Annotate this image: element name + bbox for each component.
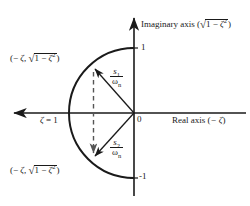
close-paren: ) — [57, 165, 60, 175]
real-axis-label-symbol: − ζ — [211, 115, 223, 125]
damping-value: 1 — [53, 115, 58, 125]
fraction-denominator: ωn — [110, 148, 123, 157]
upper-pole-coordinate-label: (− ζ, √1 − ζ2) — [10, 53, 60, 64]
radicand-prefix: 1 − — [35, 165, 49, 175]
close-paren: ) — [57, 53, 60, 63]
equals-sign: = — [46, 115, 51, 125]
s1-over-omega-n-label: s1 ωn — [110, 67, 123, 87]
open-paren: (− — [10, 53, 20, 63]
imaginary-axis-label: Imaginary axis (√1 − ζ2) — [141, 19, 231, 30]
sqrt-group: √1 − ζ2 — [28, 165, 56, 176]
fraction: s1 ωn — [110, 67, 123, 87]
radicand: 1 − ζ2 — [34, 53, 57, 63]
radicand-prefix: 1 − — [35, 53, 49, 63]
s2-over-omega-n-label: s2 ωn — [110, 138, 123, 158]
omega-subscript: n — [118, 81, 121, 88]
fraction-denominator: ωn — [110, 77, 123, 86]
exponent: 2 — [52, 51, 55, 58]
real-axis-label-close: ) — [222, 115, 225, 125]
fraction: s2 ωn — [110, 138, 123, 158]
zeta-symbol: ζ — [40, 115, 44, 125]
damping-ratio-label: ζ = 1 — [40, 116, 58, 125]
tick-label-positive-one: 1 — [141, 43, 146, 52]
sqrt-group: √1 − ζ2 — [28, 53, 56, 64]
tick-label-negative-one: -1 — [139, 172, 147, 181]
real-axis-label-prefix: Real axis ( — [172, 115, 211, 125]
open-paren: (− — [10, 165, 20, 175]
radicand: 1 − ζ2 — [205, 19, 228, 29]
imaginary-axis-label-close: ) — [228, 19, 231, 29]
omega-subscript: n — [118, 152, 121, 159]
radicand: 1 − ζ2 — [34, 165, 57, 175]
imaginary-axis-label-text: Imaginary axis ( — [141, 19, 200, 29]
exponent: 2 — [224, 17, 227, 24]
s-plane-diagram: Imaginary axis (√1 − ζ2) 1 -1 0 Real axi… — [0, 0, 250, 206]
real-axis-label: Real axis (− ζ) — [172, 116, 225, 125]
origin-label: 0 — [137, 115, 142, 124]
sqrt-group: √1 − ζ2 — [200, 19, 228, 30]
radicand-prefix: 1 − — [206, 19, 220, 29]
lower-pole-coordinate-label: (− ζ, √1 − ζ2) — [10, 165, 60, 176]
exponent: 2 — [52, 163, 55, 170]
